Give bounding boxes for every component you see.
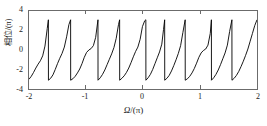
x-ticklabel-2: 2 bbox=[256, 92, 260, 101]
phase-response-figure: 相位/(π) 4 2 0 -2 -4 -2 -1 0 1 2 Ω/(π) bbox=[0, 0, 267, 126]
y-ticklabel-neg2: -2 bbox=[16, 66, 23, 74]
x-tickmark-0-top bbox=[142, 10, 143, 14]
y-ticklabel-0: 0 bbox=[19, 46, 23, 54]
x-tickmark-1 bbox=[200, 85, 201, 89]
x-axis-title: Ω/(π) bbox=[0, 105, 267, 115]
x-ticklabel-neg2: -2 bbox=[26, 92, 33, 101]
phase-curve-line bbox=[29, 20, 257, 80]
y-ticklabel-neg4: -4 bbox=[16, 86, 23, 94]
plot-area bbox=[28, 10, 258, 90]
x-tickmark-0 bbox=[142, 85, 143, 89]
x-tickmark-neg1-top bbox=[85, 10, 86, 14]
x-tickmark-neg1 bbox=[85, 85, 86, 89]
y-ticklabel-4: 4 bbox=[19, 6, 23, 14]
x-tickmark-1-top bbox=[200, 10, 201, 14]
x-ticklabel-neg1: -1 bbox=[82, 92, 89, 101]
x-ticklabel-1: 1 bbox=[198, 92, 202, 101]
phase-curve bbox=[29, 11, 257, 89]
x-axis-title-rest: /(π) bbox=[130, 105, 143, 115]
y-axis-ticklabels: 4 2 0 -2 -4 bbox=[0, 10, 26, 90]
x-ticklabel-0: 0 bbox=[140, 92, 144, 101]
y-ticklabel-2: 2 bbox=[19, 26, 23, 34]
